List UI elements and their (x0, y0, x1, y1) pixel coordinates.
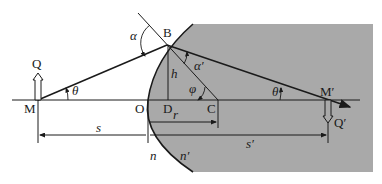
label-angle-alpha-prime: α′ (194, 58, 204, 73)
label-image-q-prime: Q′ (334, 115, 346, 130)
object-arrow-q (33, 73, 43, 100)
label-point-m: M (24, 101, 36, 116)
label-point-o: O (135, 101, 144, 116)
label-angle-theta-prime: θ′ (272, 84, 281, 99)
refraction-diagram: M O D C B M′ Q Q′ α α′ θ θ′ φ h r s s′ n… (0, 0, 382, 184)
label-point-d: D (163, 101, 172, 116)
angle-arc-theta (66, 88, 68, 100)
label-point-m-prime: M′ (320, 84, 335, 99)
label-medium-n: n (150, 148, 157, 163)
label-object-q: Q (32, 56, 42, 71)
label-angle-phi: φ (189, 81, 196, 96)
label-image-distance-s-prime: s′ (246, 136, 254, 151)
label-medium-n-prime: n′ (180, 148, 190, 163)
label-point-c: C (207, 101, 216, 116)
label-height-h: h (171, 66, 178, 81)
incident-ray (38, 45, 167, 100)
label-angle-theta: θ (72, 83, 79, 98)
label-angle-alpha: α (130, 28, 138, 43)
label-point-b: B (163, 25, 172, 40)
label-object-distance-s: s (96, 120, 101, 135)
angle-arc-alpha (141, 25, 150, 56)
